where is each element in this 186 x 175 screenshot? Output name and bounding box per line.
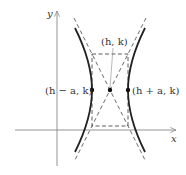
left-vertex-label: (h − a, k) [45,85,92,96]
hyperbola-diagram: y x (h, k) (h − a, k) (h + a, k) [0,0,186,175]
center-point [108,88,112,92]
center-label: (h, k) [101,36,128,47]
right-vertex-label: (h + a, k) [132,85,179,96]
right-vertex-point [126,88,130,92]
y-axis-label: y [46,8,53,19]
x-axis-label: x [171,133,177,144]
